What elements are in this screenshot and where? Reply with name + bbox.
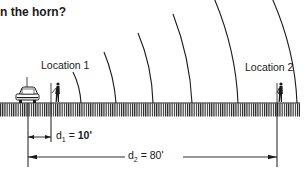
ground xyxy=(0,103,300,117)
location-2-label: Location 2 xyxy=(245,61,293,73)
d1-eq: = xyxy=(66,129,78,141)
sound-wave-3 xyxy=(138,33,153,103)
horn-sound-diagram: n the horn? xyxy=(0,0,306,171)
d1-dimension-arrow xyxy=(28,135,51,139)
diagram-graphic xyxy=(0,0,306,171)
listener-1-icon xyxy=(51,82,60,103)
listener-2-icon xyxy=(277,82,283,103)
d2-eq: = xyxy=(138,149,150,161)
sound-wave-4 xyxy=(173,14,192,103)
sound-waves xyxy=(73,0,297,103)
car-icon xyxy=(16,77,39,103)
location-1-label: Location 1 xyxy=(41,59,89,71)
d2-label: d2 = 80' xyxy=(127,149,164,163)
d2-value: 80' xyxy=(150,149,164,161)
sound-wave-6 xyxy=(272,0,297,103)
sound-wave-5 xyxy=(214,0,238,103)
d1-label: d1 = 10' xyxy=(55,129,93,143)
sound-wave-1 xyxy=(73,72,81,103)
d1-value: 10' xyxy=(78,129,92,141)
sound-wave-2 xyxy=(104,52,116,103)
